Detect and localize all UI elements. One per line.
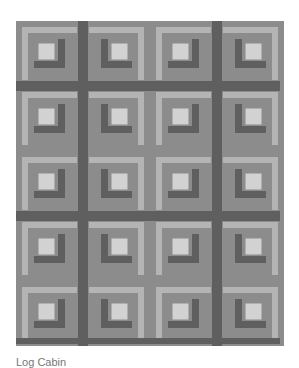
image-caption: Log Cabin (16, 356, 66, 368)
quilt-pattern (16, 21, 284, 346)
